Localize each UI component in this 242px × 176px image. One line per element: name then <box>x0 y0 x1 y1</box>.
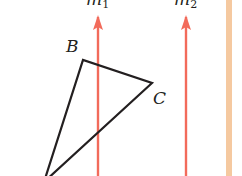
label-m2-subscript: 2 <box>190 0 197 11</box>
label-m1-subscript: 1 <box>102 0 109 11</box>
vertex-label-b: B <box>66 38 79 55</box>
label-m1: m1 <box>86 0 109 10</box>
label-m2-text: m <box>174 0 190 9</box>
diagram-canvas <box>0 0 242 176</box>
label-m2: m2 <box>174 0 197 10</box>
vertex-label-c: C <box>153 90 166 107</box>
page-border-stripe <box>226 0 232 176</box>
label-m1-text: m <box>86 0 102 9</box>
